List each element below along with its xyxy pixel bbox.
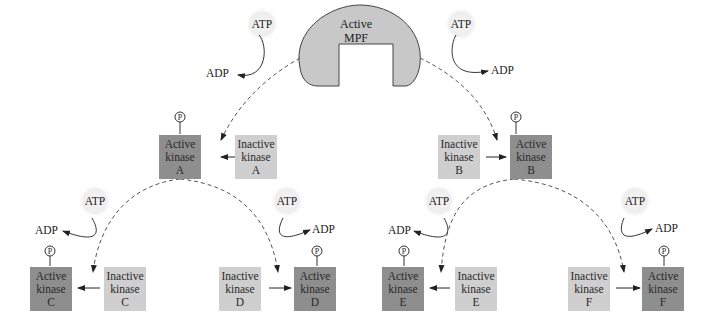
adp-label: ADP xyxy=(655,222,678,234)
inactive-kinase-d: Inactive kinase D xyxy=(219,267,261,311)
svg-text:P: P xyxy=(402,247,407,256)
phosphate-groups xyxy=(45,112,669,266)
svg-text:P: P xyxy=(662,247,667,256)
atp-label: ATP xyxy=(75,186,115,216)
atp-adp-arrows xyxy=(63,35,652,237)
atp-label: ATP xyxy=(419,186,459,216)
adp-label: ADP xyxy=(388,224,411,236)
adp-label: ADP xyxy=(35,224,58,236)
svg-text:P: P xyxy=(48,247,53,256)
active-kinase-d: Active kinase D xyxy=(294,267,336,311)
active-kinase-c: Active kinase C xyxy=(30,267,72,311)
active-kinase-e: Active kinase E xyxy=(382,267,424,311)
phosphate-letters: PP PP PP xyxy=(48,113,667,256)
inactive-kinase-b: Inactive kinase B xyxy=(438,135,480,179)
adp-label: ADP xyxy=(312,223,335,235)
inactive-kinase-c: Inactive kinase C xyxy=(104,267,146,311)
mpf-label: Active MPF xyxy=(326,17,386,45)
svg-text:P: P xyxy=(514,113,519,122)
adp-label: ADP xyxy=(206,67,229,79)
atp-label: ATP xyxy=(267,186,307,216)
active-kinase-b: Active kinase B xyxy=(510,135,552,179)
active-kinase-f: Active kinase F xyxy=(642,267,684,311)
atp-label: ATP xyxy=(615,186,655,216)
inactive-kinase-f: Inactive kinase F xyxy=(568,267,610,311)
active-kinase-a: Active kinase A xyxy=(159,135,201,179)
inactive-kinase-a: Inactive kinase A xyxy=(235,135,277,179)
inactive-kinase-e: Inactive kinase E xyxy=(455,267,497,311)
svg-text:P: P xyxy=(178,113,183,122)
adp-label: ADP xyxy=(491,64,514,76)
atp-label: ATP xyxy=(441,9,481,39)
atp-label: ATP xyxy=(242,9,282,39)
svg-text:P: P xyxy=(315,247,320,256)
